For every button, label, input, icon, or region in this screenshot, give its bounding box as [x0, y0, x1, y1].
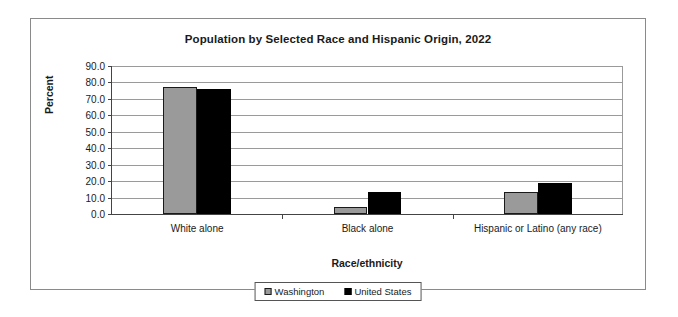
- y-axis-tick: [108, 82, 112, 83]
- y-axis-tick-label: 10.0: [86, 192, 105, 203]
- y-axis-tick-label: 40.0: [86, 143, 105, 154]
- bar-washington: [504, 192, 538, 214]
- x-axis-category-label: White alone: [171, 223, 224, 234]
- x-axis-category-label: Hispanic or Latino (any race): [474, 223, 602, 234]
- legend-entry[interactable]: United States: [344, 286, 411, 297]
- legend-swatch-icon: [344, 288, 351, 295]
- x-axis-tick: [453, 214, 454, 219]
- y-axis-tick-label: 0.0: [91, 209, 105, 220]
- y-axis-title: Percent: [43, 75, 55, 114]
- y-axis-tick: [108, 214, 112, 215]
- chart-frame: Population by Selected Race and Hispanic…: [30, 18, 646, 290]
- y-axis-tick-label: 90.0: [86, 61, 105, 72]
- bar-washington: [163, 87, 197, 214]
- y-axis-tick-label: 30.0: [86, 159, 105, 170]
- bar-washington: [334, 207, 368, 214]
- y-axis-tick-label: 50.0: [86, 126, 105, 137]
- y-axis-tick: [108, 115, 112, 116]
- bar-united-states: [368, 192, 402, 214]
- y-axis-tick: [108, 198, 112, 199]
- y-axis-tick: [108, 148, 112, 149]
- legend-entry[interactable]: Washington: [265, 286, 325, 297]
- y-axis-tick: [108, 99, 112, 100]
- bar-united-states: [538, 183, 572, 214]
- legend-label: United States: [354, 286, 411, 297]
- y-axis-tick-label: 70.0: [86, 93, 105, 104]
- legend-swatch-icon: [265, 288, 272, 295]
- y-axis-tick: [108, 181, 112, 182]
- y-axis-tick-label: 60.0: [86, 110, 105, 121]
- legend-label: Washington: [275, 286, 325, 297]
- plot-area: 90.080.070.060.050.040.030.020.010.00.0 …: [111, 66, 623, 215]
- x-axis-title: Race/ethnicity: [111, 257, 623, 269]
- x-axis-tick: [282, 214, 283, 219]
- chart-legend: WashingtonUnited States: [255, 282, 422, 301]
- gridline: [112, 82, 623, 83]
- y-axis-tick-label: 20.0: [86, 176, 105, 187]
- y-axis-tick: [108, 132, 112, 133]
- y-axis-tick-label: 80.0: [86, 77, 105, 88]
- y-axis-tick: [108, 165, 112, 166]
- y-axis-tick: [108, 66, 112, 67]
- x-axis-category-label: Black alone: [342, 223, 394, 234]
- chart-title: Population by Selected Race and Hispanic…: [31, 33, 645, 45]
- bar-united-states: [197, 89, 231, 214]
